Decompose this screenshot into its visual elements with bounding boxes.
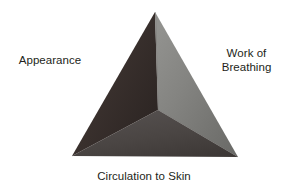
label-appearance: Appearance — [0, 54, 100, 68]
label-work-of-breathing-line2: Breathing — [222, 61, 272, 73]
diagram-canvas: Appearance Work ofBreathing Circulation … — [0, 0, 288, 189]
pyramid-graphic — [0, 0, 288, 189]
label-work-of-breathing: Work ofBreathing — [205, 47, 288, 74]
label-work-of-breathing-line1: Work of — [227, 47, 267, 59]
label-circulation-to-skin: Circulation to Skin — [68, 170, 220, 184]
